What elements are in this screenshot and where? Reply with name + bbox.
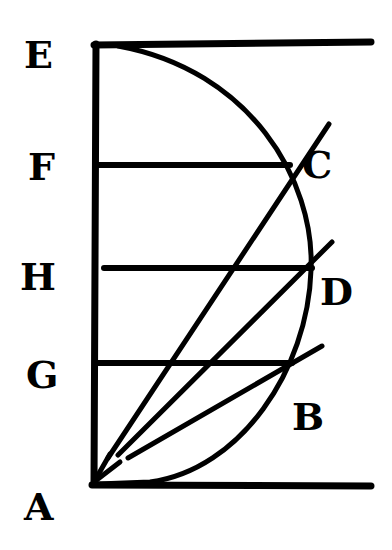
geometric-diagram: E F H G A C D B bbox=[0, 0, 392, 550]
label-f: F bbox=[28, 144, 55, 189]
label-h: H bbox=[20, 254, 56, 299]
label-e: E bbox=[24, 32, 53, 77]
label-c: C bbox=[302, 142, 332, 187]
label-b: B bbox=[292, 394, 324, 439]
label-d: D bbox=[320, 269, 353, 314]
top-horizontal-line bbox=[94, 42, 371, 45]
label-a: A bbox=[23, 484, 54, 529]
bottom-horizontal-line bbox=[92, 485, 371, 486]
label-g: G bbox=[26, 352, 58, 397]
vertical-axis-ea bbox=[94, 44, 96, 484]
